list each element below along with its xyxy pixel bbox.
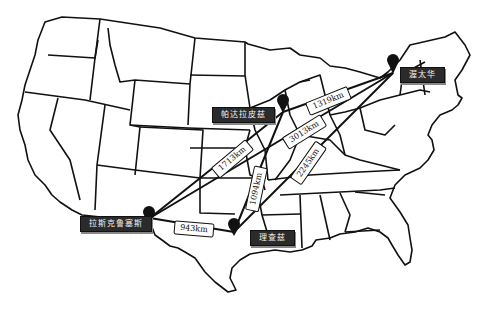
city-label-minneapolis: 帕达拉皮兹 — [212, 107, 275, 123]
us-state-outline-map — [0, 0, 495, 320]
city-label-las-cruces: 拉斯克鲁塞斯 — [80, 216, 152, 232]
city-label-ottawa: 渥太华 — [400, 67, 445, 83]
route-map: 渥太华 帕达拉皮兹 拉斯克鲁塞斯 理查兹 1319km 3013km 2245k… — [0, 0, 495, 320]
map-pin-icon — [228, 218, 240, 236]
city-label-lake-charles: 理查兹 — [250, 230, 295, 246]
route-line-ottawa-las-cruces — [150, 73, 393, 218]
